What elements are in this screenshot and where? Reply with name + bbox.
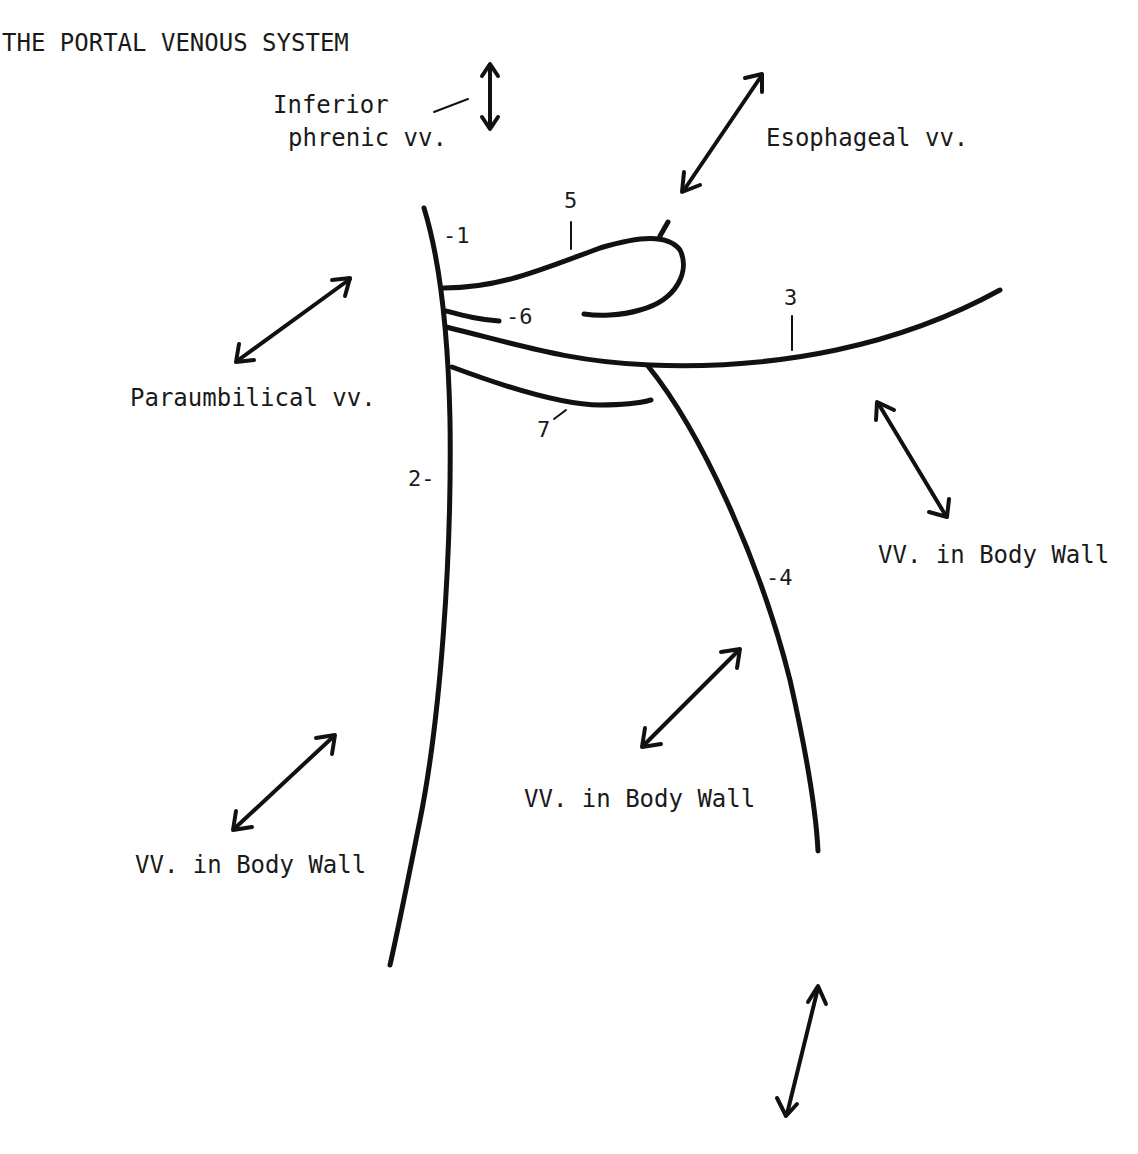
leader-inferior-phrenic (434, 99, 468, 112)
vessel-7 (452, 367, 651, 405)
vessel-1-2-portal-trunk (390, 208, 450, 965)
arrow-esophageal-icon (682, 74, 762, 192)
leader-lines (434, 99, 792, 419)
vessel-6 (446, 311, 499, 321)
vessel-number-4: -4 (766, 565, 793, 590)
diagram-title: THE PORTAL VENOUS SYSTEM (2, 29, 349, 57)
label-esophageal: Esophageal vv. (766, 124, 968, 152)
vessels (390, 208, 1000, 965)
arrow-paraumbilical-icon (236, 278, 350, 362)
arrow-body-wall-left-icon (233, 735, 335, 830)
vessel-number-2: 2- (408, 466, 435, 491)
label-body-wall-right: VV. in Body Wall (878, 541, 1109, 569)
portal-venous-diagram: THE PORTAL VENOUS SYSTEM Inferior phreni… (0, 0, 1138, 1154)
arrow-body-wall-right-icon (876, 402, 949, 517)
arrow-inferior-phrenic-icon (482, 64, 498, 129)
vessel-number-6: -6 (506, 304, 533, 329)
label-inferior-phrenic-line2: phrenic vv. (288, 124, 447, 152)
arrow-bottom-icon (777, 986, 826, 1116)
vessel-number-3: 3 (784, 285, 797, 310)
arrow-body-wall-center-icon (642, 649, 740, 747)
label-inferior-phrenic-line1: Inferior (273, 91, 389, 119)
leader-7 (554, 410, 566, 419)
vessel-number-1: -1 (443, 223, 470, 248)
vessel-5-tip (660, 222, 668, 236)
vessel-number-5: 5 (564, 188, 577, 213)
label-body-wall-left: VV. in Body Wall (135, 851, 366, 879)
vessel-5-loop (444, 239, 683, 316)
vessel-4 (648, 366, 818, 851)
label-body-wall-center: VV. in Body Wall (524, 785, 755, 813)
arrows (233, 64, 949, 1116)
label-paraumbilical: Paraumbilical vv. (130, 384, 376, 412)
vessel-number-7: 7 (537, 417, 550, 442)
